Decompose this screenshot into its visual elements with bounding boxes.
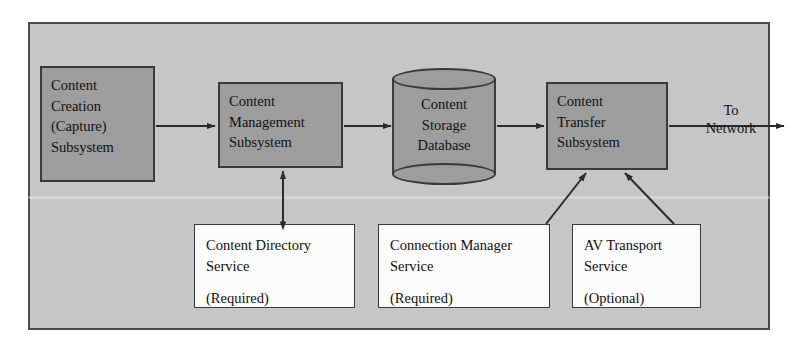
block-line: (Capture) — [51, 116, 153, 137]
scan-artifact-band — [0, 196, 808, 199]
service-line: Service — [390, 256, 549, 277]
block-line: Subsystem — [51, 137, 153, 158]
service-box-connection-manager: Connection Manager Service (Required) — [378, 224, 550, 308]
service-line: Content Directory — [206, 235, 354, 256]
block-line: Transfer — [557, 112, 666, 133]
diagram-canvas: Content Creation (Capture) Subsystem Con… — [0, 0, 808, 351]
service-requirement: (Required) — [390, 288, 549, 309]
database-line: Storage — [392, 115, 496, 136]
block-content-transfer-subsystem: Content Transfer Subsystem — [546, 82, 668, 170]
to-network-line: Network — [694, 119, 768, 137]
block-content-creation-subsystem: Content Creation (Capture) Subsystem — [40, 66, 155, 182]
block-line: Content — [229, 91, 341, 112]
database-label: Content Storage Database — [392, 94, 496, 156]
service-line: Connection Manager — [390, 235, 549, 256]
block-line: Content — [51, 75, 153, 96]
block-line: Subsystem — [229, 132, 341, 153]
service-line: Service — [206, 256, 354, 277]
content-storage-database-cylinder: Content Storage Database — [392, 68, 496, 185]
cylinder-top-cap — [392, 68, 496, 90]
spacer — [584, 277, 700, 288]
to-network-label: To Network — [694, 101, 768, 137]
block-line: Creation — [51, 96, 153, 117]
block-line: Content — [557, 91, 666, 112]
database-line: Content — [392, 94, 496, 115]
block-content-management-subsystem: Content Management Subsystem — [218, 82, 343, 168]
service-line: AV Transport — [584, 235, 700, 256]
cylinder-bottom-cap — [392, 163, 496, 185]
spacer — [206, 277, 354, 288]
block-line: Subsystem — [557, 132, 666, 153]
to-network-line: To — [694, 101, 768, 119]
service-line: Service — [584, 256, 700, 277]
service-box-av-transport: AV Transport Service (Optional) — [572, 224, 701, 308]
block-line: Management — [229, 112, 341, 133]
service-requirement: (Optional) — [584, 288, 700, 309]
service-requirement: (Required) — [206, 288, 354, 309]
database-line: Database — [392, 135, 496, 156]
service-box-content-directory: Content Directory Service (Required) — [194, 224, 355, 308]
spacer — [390, 277, 549, 288]
